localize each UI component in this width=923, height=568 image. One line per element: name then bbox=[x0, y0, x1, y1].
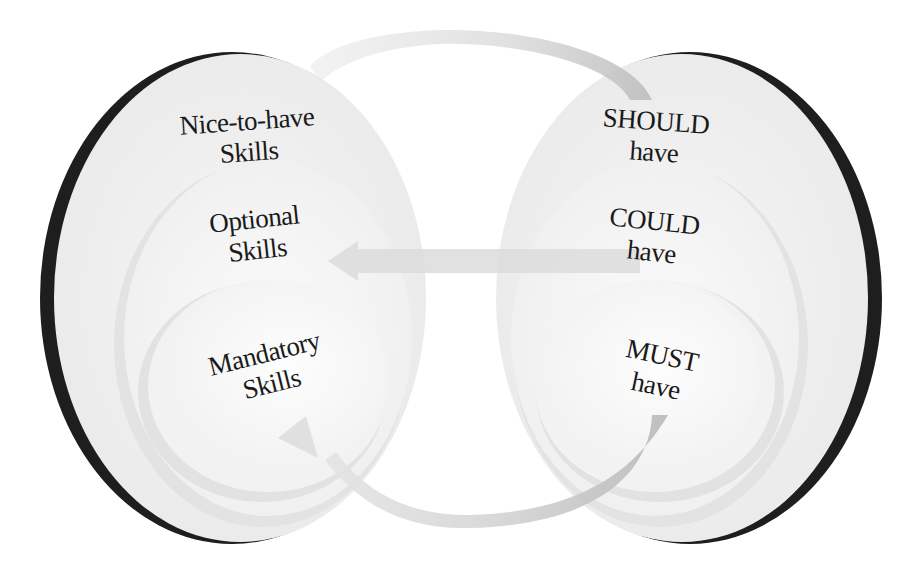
label-should-have: SHOULD have bbox=[588, 102, 722, 173]
skills-moscow-diagram bbox=[0, 0, 923, 568]
label-optional-skills: Optional Skills bbox=[193, 198, 319, 272]
label-could-have: COULD have bbox=[595, 200, 711, 273]
label-nice-to-have-skills: Nice-to-have Skills bbox=[166, 100, 330, 173]
